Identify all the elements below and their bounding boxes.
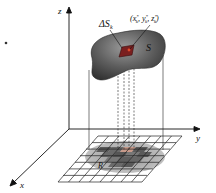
y-axis-label: y [195,133,200,143]
y-axis-arrow [194,127,200,132]
surface-integral-diagram: z y x S R ΔSk (x*k, y*k, z*k) [0,0,216,193]
region-label: R [97,161,103,170]
sample-point [128,49,131,52]
x-axis-line [13,129,69,183]
z-axis-arrow [67,7,72,13]
diagram-canvas: z y x S R ΔSk (x*k, y*k, z*k) [0,0,216,193]
bullet-dot [5,42,8,45]
z-axis-label: z [57,6,62,16]
point-label: (x*k, y*k, z*k) [130,14,159,24]
delta-s-label: ΔSk [98,18,113,30]
x-axis-label: x [19,180,24,190]
surface-label: S [146,42,151,53]
